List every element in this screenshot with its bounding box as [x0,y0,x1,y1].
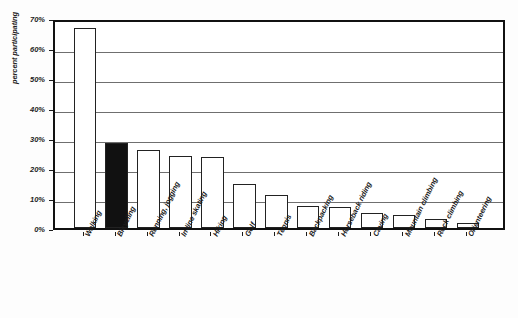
x-tick-mark [338,232,339,236]
bar-chart: percent participating 0%10%20%30%40%50%6… [0,0,518,318]
y-tick-mark [49,140,53,141]
x-tick-mark [370,232,371,236]
x-axis-labels: WalkingBicyclingRunning, joggingIn-line … [53,232,505,318]
y-tick-mark [49,230,53,231]
x-tick-mark [434,232,435,236]
x-tick-mark [466,232,467,236]
x-tick-mark [274,232,275,236]
x-tick-mark [179,232,180,236]
y-tick-label: 40% [0,105,45,114]
bars-layer [55,22,503,228]
y-tick-label: 0% [0,225,45,234]
y-tick-mark [49,80,53,81]
y-tick-mark [49,170,53,171]
y-tick-mark [49,50,53,51]
plot-area [53,20,505,230]
y-tick-label: 10% [0,195,45,204]
y-tick-mark [49,200,53,201]
y-tick-label: 50% [0,75,45,84]
x-tick-mark [306,232,307,236]
y-tick-label: 20% [0,165,45,174]
bar-walking [74,28,96,228]
x-tick-mark [402,232,403,236]
x-tick-mark [242,232,243,236]
y-tick-label: 30% [0,135,45,144]
y-tick-mark [49,110,53,111]
y-tick-mark [49,20,53,21]
x-tick-mark [115,232,116,236]
x-tick-mark [147,232,148,236]
x-tick-mark [210,232,211,236]
y-tick-label: 70% [0,15,45,24]
x-tick-mark [83,232,84,236]
y-tick-label: 60% [0,45,45,54]
